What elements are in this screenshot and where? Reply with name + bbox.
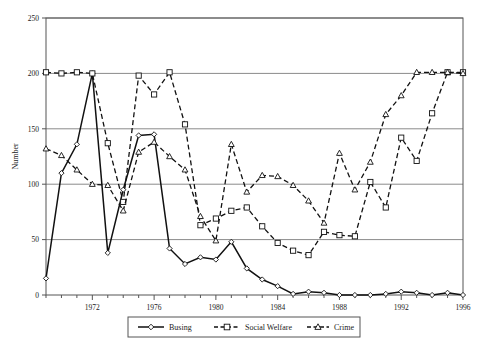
chart-canvas: 0501001502002501972197619801984198819921… xyxy=(0,0,489,346)
data-point-marker xyxy=(198,255,203,260)
data-point-marker xyxy=(368,292,373,297)
data-point-marker xyxy=(244,205,249,210)
data-point-marker xyxy=(460,292,465,297)
data-point-marker xyxy=(151,139,157,144)
data-point-marker xyxy=(337,292,342,297)
data-point-marker xyxy=(352,187,358,192)
data-point-marker xyxy=(275,284,280,289)
data-point-marker xyxy=(74,70,79,75)
data-point-marker xyxy=(399,289,404,294)
data-point-marker xyxy=(383,111,389,116)
series-crime xyxy=(43,69,466,243)
x-tick-label: 1992 xyxy=(394,303,409,312)
data-point-marker xyxy=(337,233,342,238)
data-point-marker xyxy=(198,223,203,228)
data-point-marker xyxy=(120,208,126,213)
data-point-marker xyxy=(152,92,157,97)
legend-marker-square-icon xyxy=(224,324,230,330)
data-point-marker xyxy=(182,122,187,127)
data-point-marker xyxy=(105,141,110,146)
data-point-marker xyxy=(291,291,296,296)
data-point-marker xyxy=(59,152,65,157)
y-tick-label: 250 xyxy=(28,14,40,23)
legend-label: Social Welfare xyxy=(245,323,292,332)
y-axis-title: Number xyxy=(11,143,20,170)
y-tick-label: 150 xyxy=(28,125,40,134)
data-point-marker xyxy=(321,229,326,234)
data-point-marker xyxy=(244,189,250,194)
data-point-marker xyxy=(228,141,234,146)
data-point-marker xyxy=(291,248,296,253)
x-tick-label: 1996 xyxy=(456,303,471,312)
data-point-marker xyxy=(399,135,404,140)
x-tick-label: 1984 xyxy=(270,303,285,312)
data-point-marker xyxy=(367,159,373,164)
data-point-marker xyxy=(260,224,265,229)
data-point-marker xyxy=(43,70,48,75)
data-point-marker xyxy=(306,253,311,258)
data-point-marker xyxy=(383,291,388,296)
data-point-marker xyxy=(414,158,419,163)
x-tick-label: 1980 xyxy=(208,303,223,312)
data-point-marker xyxy=(136,149,142,154)
series-line xyxy=(46,72,463,255)
data-point-marker xyxy=(337,150,343,155)
x-tick-label: 1972 xyxy=(85,303,100,312)
data-point-marker xyxy=(59,71,64,76)
x-tick-label: 1988 xyxy=(332,303,347,312)
data-point-marker xyxy=(105,250,110,255)
y-tick-label: 100 xyxy=(28,180,40,189)
data-point-marker xyxy=(182,167,188,172)
y-tick-label: 0 xyxy=(35,291,39,300)
legend-label: Crime xyxy=(334,323,354,332)
data-point-marker xyxy=(306,289,311,294)
data-point-marker xyxy=(136,133,141,138)
data-point-marker xyxy=(152,132,157,137)
data-point-marker xyxy=(352,292,357,297)
y-tick-label: 200 xyxy=(28,69,40,78)
data-point-marker xyxy=(290,182,296,187)
y-tick-label: 50 xyxy=(32,235,40,244)
data-point-marker xyxy=(430,292,435,297)
data-point-marker xyxy=(275,173,281,178)
data-point-marker xyxy=(398,93,404,98)
data-point-marker xyxy=(43,276,48,281)
line-chart: 0501001502002501972197619801984198819921… xyxy=(0,0,489,346)
data-point-marker xyxy=(306,198,312,203)
data-point-marker xyxy=(368,179,373,184)
data-point-marker xyxy=(213,216,218,221)
data-point-marker xyxy=(167,70,172,75)
x-tick-label: 1976 xyxy=(147,303,162,312)
data-point-marker xyxy=(90,71,95,76)
data-point-marker xyxy=(136,73,141,78)
data-point-marker xyxy=(383,205,388,210)
data-point-marker xyxy=(43,146,49,151)
data-point-marker xyxy=(352,234,357,239)
data-point-marker xyxy=(229,208,234,213)
legend-label: Busing xyxy=(169,323,192,332)
data-point-marker xyxy=(275,240,280,245)
data-point-marker xyxy=(430,111,435,116)
